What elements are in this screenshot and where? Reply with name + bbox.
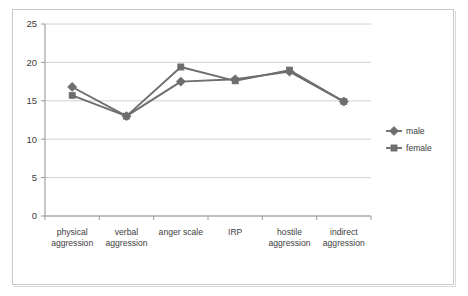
y-tick-label: 25 xyxy=(26,18,37,29)
x-category-label: indirect xyxy=(330,227,358,237)
legend-label-male: male xyxy=(406,126,425,136)
x-category-label: anger scale xyxy=(159,227,204,237)
x-tick-marks-group xyxy=(45,216,371,220)
x-category-label: IRP xyxy=(228,227,243,237)
data-point-female xyxy=(178,64,184,70)
y-tick-label: 15 xyxy=(26,95,37,106)
y-tick-label: 20 xyxy=(26,57,37,68)
x-category-label: verbal xyxy=(115,227,138,237)
x-category-label: aggression xyxy=(268,238,310,248)
x-category-label: aggression xyxy=(51,238,93,248)
y-tick-labels-group: 0510152025 xyxy=(26,18,45,221)
data-point-female xyxy=(286,67,292,73)
data-point-male xyxy=(176,77,185,86)
x-category-label: physical xyxy=(57,227,88,237)
x-category-label: aggression xyxy=(323,238,365,248)
legend-marker-male xyxy=(389,126,398,135)
series-markers-group xyxy=(68,64,349,121)
chart-figure: 0510152025 physicalaggressionverbalaggre… xyxy=(0,0,468,296)
data-point-female xyxy=(341,98,347,104)
axes-group xyxy=(45,24,371,216)
gridlines-group xyxy=(45,24,371,216)
y-tick-label: 10 xyxy=(26,134,37,145)
x-category-label: aggression xyxy=(105,238,147,248)
data-point-female xyxy=(232,78,238,84)
x-category-label: hostile xyxy=(277,227,302,237)
y-tick-label: 0 xyxy=(32,210,37,221)
data-point-female xyxy=(123,113,129,119)
series-lines-group xyxy=(72,67,344,116)
x-category-labels-group: physicalaggressionverbalaggressionanger … xyxy=(51,227,365,248)
y-tick-label: 5 xyxy=(32,172,37,183)
data-point-male xyxy=(68,82,77,91)
legend-marker-female xyxy=(391,145,397,151)
line-chart: 0510152025 physicalaggressionverbalaggre… xyxy=(0,0,468,296)
data-point-female xyxy=(69,92,75,98)
legend-label-female: female xyxy=(406,143,432,153)
legend: malefemale xyxy=(386,126,432,153)
